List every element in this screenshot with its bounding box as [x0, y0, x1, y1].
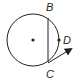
- point-d: [57, 38, 60, 41]
- tangent-ray: [48, 49, 71, 63]
- label-c: C: [46, 68, 54, 80]
- label-d: D: [63, 34, 71, 46]
- label-b: B: [46, 1, 53, 13]
- center-point: [31, 38, 34, 41]
- circle-diagram: B C D: [0, 0, 77, 81]
